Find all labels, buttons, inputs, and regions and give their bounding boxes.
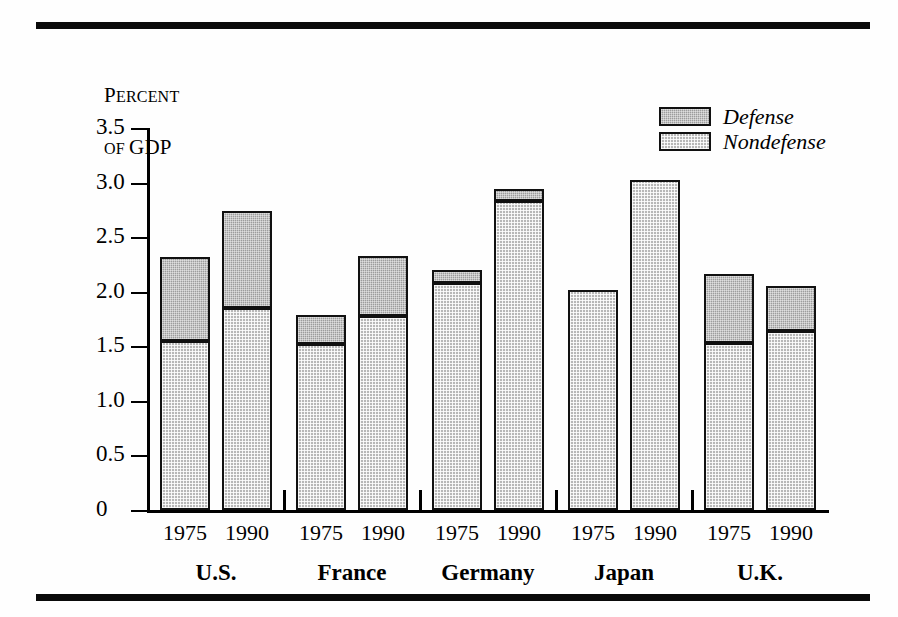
y-tick-2.0 [131,292,147,294]
y-tick-label-3.5: 3.5 [96,114,110,140]
y-axis-title-line1: PERCENT [104,89,179,105]
bar-segment-nondefense [704,343,754,510]
bar-segment-defense [432,270,482,283]
y-tick-label-0: 0 [96,496,110,522]
y-tick-0.5 [131,455,147,457]
top-rule [36,22,870,29]
y-tick-3.0 [131,183,147,185]
bar-segment-defense [704,274,754,343]
bar-segment-nondefense [494,201,544,510]
bar-japan-1990 [630,180,680,510]
y-tick-label-1.0: 1.0 [96,387,110,413]
y-tick-label-1.5: 1.5 [96,333,110,359]
bar-us-1975 [160,259,210,510]
bar-segment-nondefense [766,331,816,510]
y-tick-0 [131,510,147,512]
bar-segment-nondefense [432,283,482,510]
group-separator-4 [691,490,694,510]
bar-segment-defense [222,211,272,308]
group-separator-2 [419,490,422,510]
y-tick-1.0 [131,401,147,403]
bar-segment-nondefense [568,290,618,510]
x-year-label-uk-1990: 1990 [746,520,836,546]
bar-uk-1975 [704,276,754,510]
bar-segment-nondefense [296,344,346,510]
bar-segment-defense [358,256,408,316]
bar-segment-nondefense [160,341,210,510]
y-tick-label-2.0: 2.0 [96,278,110,304]
bar-segment-defense [494,189,544,201]
group-separator-1 [283,490,286,510]
y-tick-label-0.5: 0.5 [96,442,110,468]
bar-segment-nondefense [630,180,680,510]
y-tick-1.5 [131,346,147,348]
bar-us-1990 [222,213,272,510]
bar-uk-1990 [766,288,816,510]
y-tick-label-2.5: 2.5 [96,224,110,250]
x-group-label-uk: U.K. [670,560,850,586]
x-axis-line [147,510,829,513]
figure-container: PERCENT OF GDP Defense Nondefense 3.53.0… [0,0,898,617]
y-axis-line [147,128,150,511]
y-tick-3.5 [131,128,147,130]
group-separator-3 [555,490,558,510]
legend-label-defense: Defense [723,104,794,130]
y-tick-label-3.0: 3.0 [96,169,110,195]
bar-france-1975 [296,317,346,510]
bar-japan-1975 [568,290,618,510]
bar-segment-defense [296,315,346,344]
bar-segment-defense [160,257,210,341]
bar-segment-nondefense [222,308,272,510]
defense-swatch-icon [659,107,711,126]
legend-item-defense: Defense [659,104,826,129]
bar-germany-1975 [432,272,482,510]
plot-area: 3.53.02.52.01.51.00.50 19751990197519901… [148,128,828,510]
bar-france-1990 [358,258,408,510]
bar-segment-defense [766,286,816,331]
bar-segment-nondefense [358,316,408,510]
y-tick-2.5 [131,237,147,239]
bar-germany-1990 [494,191,544,510]
bottom-rule [36,594,870,601]
